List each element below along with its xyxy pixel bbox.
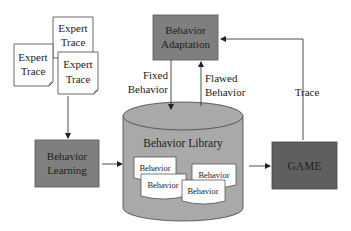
- expert-trace-label: Trace: [66, 73, 91, 85]
- svg-text:Behavior: Behavior: [198, 170, 229, 180]
- behavior-library-cylinder: Behavior Library Behavior Behavior Behav…: [123, 102, 243, 221]
- game-box: GAME: [272, 142, 337, 189]
- expert-trace-left: Expert Trace: [14, 44, 53, 86]
- expert-trace-front: Expert Trace: [58, 52, 98, 94]
- expert-trace-label: Trace: [21, 65, 46, 77]
- fixed-behavior-label: Fixed: [143, 69, 169, 81]
- behavior-library-title: Behavior Library: [143, 137, 223, 150]
- flawed-behavior-label: Behavior: [205, 86, 246, 98]
- expert-trace-label: Expert: [58, 22, 87, 34]
- svg-text:Behavior: Behavior: [165, 24, 206, 36]
- expert-trace-label: Expert: [63, 58, 92, 70]
- behavior-document: Behavior: [182, 180, 225, 204]
- svg-text:Learning: Learning: [47, 164, 87, 176]
- svg-text:Behavior: Behavior: [47, 150, 88, 162]
- fixed-behavior-label: Behavior: [128, 83, 169, 95]
- behavior-document: Behavior: [141, 174, 186, 199]
- behavior-adaptation-box: Behavior Adaptation: [153, 15, 218, 60]
- svg-text:Behavior: Behavior: [187, 186, 218, 196]
- behavior-learning-box: Behavior Learning: [35, 140, 99, 187]
- svg-text:Behavior: Behavior: [139, 163, 170, 173]
- trace-label: Trace: [295, 86, 320, 98]
- svg-text:GAME: GAME: [288, 160, 322, 172]
- diagram-canvas: Expert Trace Expert Trace Expert Trace B…: [0, 0, 351, 231]
- flawed-behavior-label: Flawed: [205, 72, 238, 84]
- svg-text:Adaptation: Adaptation: [161, 38, 210, 50]
- expert-trace-label: Trace: [61, 36, 86, 48]
- svg-text:Behavior: Behavior: [147, 180, 178, 190]
- expert-trace-label: Expert: [18, 51, 47, 63]
